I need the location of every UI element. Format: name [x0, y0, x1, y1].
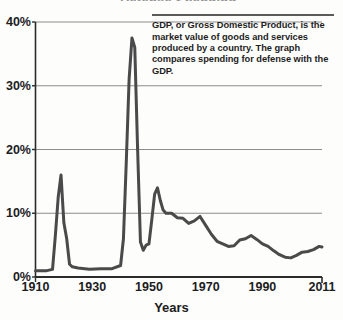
chart-title-remnant: Defense Spending — [120, 0, 300, 1]
x-axis-title: Years — [0, 300, 343, 315]
x-tick-label: 1990 — [249, 281, 277, 294]
annotation-block: GDP, or Gross Domestic Product, is the m… — [152, 14, 340, 77]
y-tick-label: 20% — [0, 143, 31, 156]
x-tick-label: 1910 — [22, 281, 50, 294]
x-tick-label: 1930 — [78, 281, 106, 294]
annotation-rule — [152, 14, 334, 16]
y-tick-label: 30% — [0, 80, 31, 93]
x-tick-label: 1970 — [192, 281, 220, 294]
y-tick-label: 40% — [0, 16, 31, 29]
x-tick-label: 2011 — [308, 281, 335, 294]
chart-figure: Defense Spending 0%10%20%30%40% 19101930… — [0, 0, 343, 320]
y-tick-label: 10% — [0, 207, 31, 220]
x-tick-label: 1950 — [135, 281, 163, 294]
annotation-text: GDP, or Gross Domestic Product, is the m… — [152, 20, 340, 77]
